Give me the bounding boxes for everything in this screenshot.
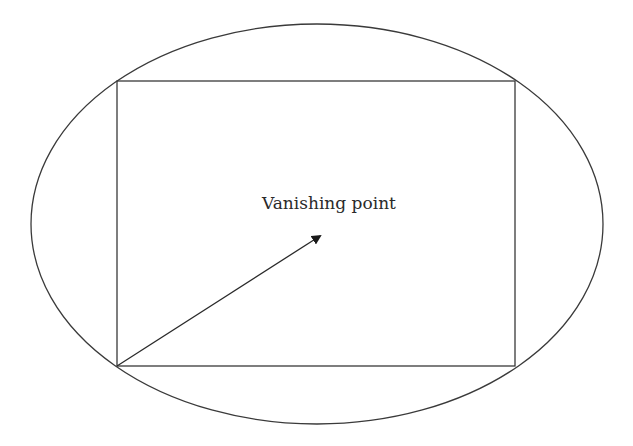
arrow-to-vanishing-point [117,236,320,366]
diagram-canvas [0,0,633,446]
picture-frame-rectangle [117,81,515,366]
vanishing-point-label: Vanishing point [262,193,396,213]
